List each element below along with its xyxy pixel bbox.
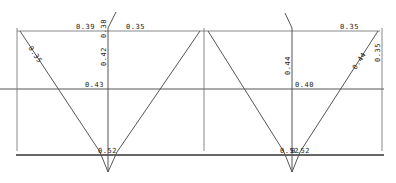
label-right-diagonal: 0.44 xyxy=(351,51,368,71)
left-v-right-flank xyxy=(117,31,200,152)
label-left-center-vertical-lower: 0.42 xyxy=(100,47,108,66)
right-v-axis-kink xyxy=(285,13,292,28)
label-right-center-vertical: 0.44 xyxy=(284,56,292,75)
left-v-axis-kink xyxy=(108,12,116,28)
label-left-top-right: 0.35 xyxy=(126,23,145,31)
right-v-left-flank xyxy=(208,31,284,152)
label-right-bottom-tip-overlap: 0.52 xyxy=(291,147,310,155)
v-groove-diagram: 0.39 0.35 0.38 0.42 0.35 0.43 0.52 0.35 … xyxy=(0,0,396,183)
label-left-diagonal: 0.35 xyxy=(26,45,43,65)
label-right-vertical: 0.35 xyxy=(374,43,382,62)
right-v-right-flank xyxy=(300,31,378,152)
label-left-bottom-tip: 0.52 xyxy=(98,147,117,155)
label-left-center-vertical-upper: 0.38 xyxy=(100,19,108,38)
label-left-middle: 0.43 xyxy=(85,81,104,89)
label-right-middle: 0.40 xyxy=(295,81,314,89)
label-right-top-right: 0.35 xyxy=(340,23,359,31)
label-left-top-left: 0.39 xyxy=(76,23,95,31)
